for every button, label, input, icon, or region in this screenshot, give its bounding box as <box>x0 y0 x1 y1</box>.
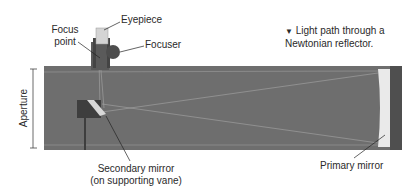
label-secondary-line2: (on supporting vane) <box>76 175 196 187</box>
eyepiece <box>96 28 108 44</box>
caption-text-1: Light path through a <box>296 25 385 36</box>
label-focus-point-line1: Focus <box>50 24 80 36</box>
caption-line2: Newtonian reflector. <box>285 38 385 50</box>
focuser-knob <box>106 45 120 59</box>
label-secondary-line1: Secondary mirror <box>76 163 196 175</box>
label-focus-point: Focus point <box>50 24 80 48</box>
label-primary-mirror: Primary mirror <box>320 160 383 172</box>
triangle-down-icon: ▼ <box>285 27 293 36</box>
supporting-vane <box>84 118 86 150</box>
label-eyepiece: Eyepiece <box>121 14 162 26</box>
label-focuser: Focuser <box>145 39 181 51</box>
caption-line1: ▼ Light path through a <box>285 25 385 38</box>
label-aperture: Aperture <box>18 86 30 130</box>
leader-focuser <box>120 46 144 52</box>
leader-eyepiece <box>104 22 120 30</box>
tube-end-cap <box>390 66 402 150</box>
label-secondary-mirror: Secondary mirror (on supporting vane) <box>76 163 196 187</box>
caption: ▼ Light path through a Newtonian reflect… <box>285 25 385 50</box>
label-focus-point-line2: point <box>50 36 80 48</box>
